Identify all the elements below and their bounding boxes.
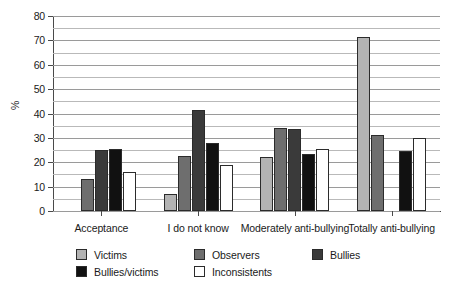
legend-swatch-icon bbox=[312, 249, 323, 260]
bar bbox=[192, 110, 205, 211]
bar-group bbox=[260, 16, 330, 211]
legend-item[interactable]: Observers bbox=[194, 249, 260, 261]
chart-legend: VictimsObserversBulliesBullies/victimsIn… bbox=[76, 246, 406, 280]
x-tick-label: Moderately anti-bullying bbox=[241, 222, 350, 234]
y-tick-label: 30 bbox=[19, 133, 45, 143]
bar bbox=[178, 156, 191, 211]
bar bbox=[206, 143, 219, 211]
legend-label: Observers bbox=[212, 249, 260, 261]
y-tick-label: 60 bbox=[19, 60, 45, 70]
bar bbox=[288, 129, 301, 211]
y-tick-label: 10 bbox=[19, 182, 45, 192]
bar-group bbox=[67, 16, 137, 211]
legend-item[interactable]: Victims bbox=[76, 249, 127, 261]
legend-swatch-icon bbox=[76, 249, 87, 260]
legend-item[interactable]: Bullies bbox=[312, 249, 360, 261]
bar bbox=[260, 157, 273, 211]
bar bbox=[274, 128, 287, 211]
y-tick-label: 0 bbox=[19, 206, 45, 216]
legend-row: VictimsObserversBullies bbox=[76, 246, 406, 263]
y-tick-label: 70 bbox=[19, 35, 45, 45]
legend-label: Bullies bbox=[330, 249, 360, 261]
gridline-major bbox=[53, 211, 440, 212]
bar bbox=[109, 149, 122, 211]
bar-chart-figure: % 01020304050607080 AcceptanceI do not k… bbox=[0, 0, 458, 290]
y-tick-label: 50 bbox=[19, 84, 45, 94]
y-tick-label: 80 bbox=[19, 11, 45, 21]
y-tick-label: 20 bbox=[19, 157, 45, 167]
x-tick-label: Totally anti-bullying bbox=[348, 222, 435, 234]
bar bbox=[413, 138, 426, 211]
bar bbox=[371, 135, 384, 211]
x-tick-label: Acceptance bbox=[74, 222, 128, 234]
plot-area bbox=[53, 16, 440, 211]
bar bbox=[399, 151, 412, 211]
legend-swatch-icon bbox=[76, 266, 87, 277]
bar bbox=[123, 172, 136, 211]
x-tick-label: I do not know bbox=[168, 222, 229, 234]
bar-group bbox=[164, 16, 234, 211]
x-tick-mark bbox=[198, 211, 199, 216]
bar bbox=[95, 150, 108, 211]
bar bbox=[302, 154, 315, 211]
bar bbox=[316, 149, 329, 211]
y-tick-label: 40 bbox=[19, 109, 45, 119]
bar-group bbox=[357, 16, 427, 211]
legend-swatch-icon bbox=[194, 249, 205, 260]
legend-swatch-icon bbox=[194, 266, 205, 277]
legend-item[interactable]: Bullies/victims bbox=[76, 266, 158, 278]
legend-row: Bullies/victimsInconsistents bbox=[76, 263, 406, 280]
x-tick-mark bbox=[295, 211, 296, 216]
x-tick-mark bbox=[101, 211, 102, 216]
bar bbox=[81, 179, 94, 211]
x-tick-mark bbox=[392, 211, 393, 216]
bar bbox=[220, 165, 233, 211]
legend-label: Victims bbox=[94, 249, 127, 261]
legend-item[interactable]: Inconsistents bbox=[194, 266, 272, 278]
bar bbox=[164, 194, 177, 211]
bar bbox=[357, 37, 370, 211]
legend-label: Bullies/victims bbox=[94, 266, 158, 278]
legend-label: Inconsistents bbox=[212, 266, 272, 278]
